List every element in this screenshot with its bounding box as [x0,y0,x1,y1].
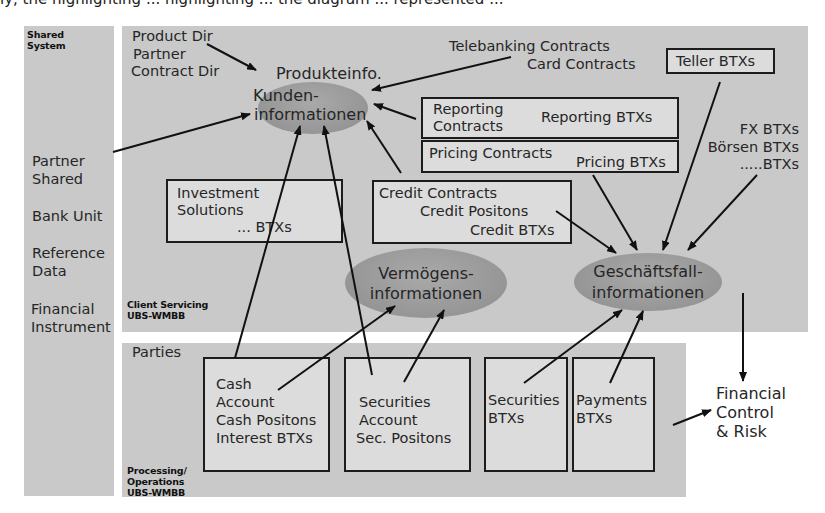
sec-btxs-line1: Securities [488,392,559,409]
clipped-caption: ly, the highlighting ... highlighting ..… [0,0,825,8]
vermoegen-line1: Vermögens- [345,264,507,283]
investment-line3: ... BTXs [237,219,292,236]
processing-label-line1: Processing/ [127,465,187,476]
shared-item-data: Data [32,263,67,280]
pricing-box: Pricing Contracts Pricing BTXs [421,140,679,173]
client-servicing-label-line1: Client Servicing [127,299,208,310]
processing-label-line3: UBS-WMBB [127,487,187,498]
kunden-label: Kunden- [253,86,319,105]
teller-btxs-label: Teller BTXs [676,53,755,70]
pricing-contracts-label: Pricing Contracts [429,145,552,162]
shared-title-line2: System [27,40,65,51]
boersen-btxs-label: Börsen BTXs [708,139,799,156]
more-btxs-label: .....BTXs [740,156,799,173]
shared-item-instrument: Instrument [31,319,111,336]
reporting-box: Reporting Contracts Reporting BTXs [421,97,679,139]
financial-control-line2: Control [716,403,774,422]
financial-control-line3: & Risk [716,422,767,441]
cash-line4: Interest BTXs [216,430,313,447]
credit-contracts-label: Credit Contracts [379,185,497,202]
reporting-contracts-line2: Contracts [433,118,503,135]
shared-item-reference: Reference [32,245,105,262]
sec-account-line1: Securities [359,394,430,411]
sec-account-line3: Sec. Positons [356,430,451,447]
reporting-contracts-line1: Reporting [433,101,504,118]
reporting-btxs-label: Reporting BTXs [541,109,652,126]
cash-line2: Account [216,394,275,411]
shared-item-financial: Financial [31,301,95,318]
securities-account-box: Securities Account Sec. Positons [344,357,471,472]
financial-control-line1: Financial [716,384,786,403]
product-dir-label: Product Dir [132,28,213,45]
informationen-label: informationen [254,105,366,124]
geschaeft-line2: informationen [574,283,722,302]
contract-dir-label: Contract Dir [131,63,219,80]
shared-title-line1: Shared [27,29,65,40]
credit-btxs-label: Credit BTXs [470,222,555,239]
payments-line2: BTXs [576,410,612,427]
processing-label-line2: Operations [127,476,187,487]
payments-btxs-box: Payments BTXs [572,357,655,472]
credit-box: Credit Contracts Credit Positons Credit … [372,180,572,244]
pricing-btxs-label: Pricing BTXs [576,154,666,171]
client-servicing-label-line2: UBS-WMBB [127,310,208,321]
shared-item-bank-unit: Bank Unit [32,208,103,225]
cash-account-box: Cash Account Cash Positons Interest BTXs [203,357,330,472]
sec-account-line2: Account [359,412,418,429]
cash-line1: Cash [216,376,252,393]
teller-btxs-box: Teller BTXs [666,48,775,74]
processing-label: Processing/ Operations UBS-WMBB [127,465,187,498]
shared-system-title: Shared System [27,29,65,51]
geschaeft-line1: Geschäftsfall- [574,262,722,281]
client-servicing-label: Client Servicing UBS-WMBB [127,299,208,321]
investment-line2: Solutions [177,202,244,219]
parties-label: Parties [132,344,181,361]
shared-item-partner: Partner [32,153,85,170]
payments-line1: Payments [576,392,647,409]
fx-btxs-label: FX BTXs [740,121,799,138]
securities-btxs-box: Securities BTXs [484,357,568,472]
vermoegen-line2: informationen [345,284,507,303]
vermoegen-ellipse [345,248,507,318]
cash-line3: Cash Positons [216,412,316,429]
telebanking-contracts-label: Telebanking Contracts [449,38,610,55]
credit-positons-label: Credit Positons [420,203,528,220]
shared-item-shared: Shared [32,171,83,188]
card-contracts-label: Card Contracts [527,56,635,73]
produkteinfo-label: Produkteinfo. [276,65,382,82]
investment-solutions-box: Investment Solutions ... BTXs [166,179,343,243]
partner-label: Partner [133,46,186,63]
sec-btxs-line2: BTXs [488,410,524,427]
investment-line1: Investment [177,185,259,202]
